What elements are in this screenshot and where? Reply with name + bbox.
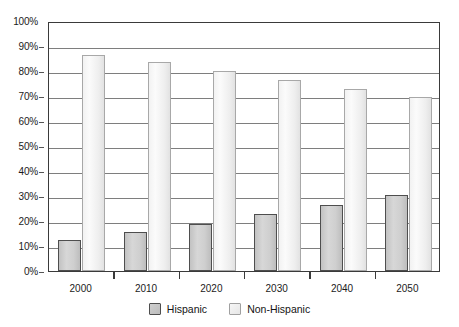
y-axis-tick-label: 10% <box>19 242 38 252</box>
legend-label: Hispanic <box>167 303 207 315</box>
plot-area <box>48 22 440 272</box>
chart-legend: HispanicNon-Hispanic <box>0 303 459 315</box>
y-axis-tick-label: 30% <box>19 192 38 202</box>
x-axis-tick-mark <box>375 272 376 279</box>
bars-layer <box>49 23 439 271</box>
bar-non-hispanic-2000 <box>82 55 105 271</box>
y-axis-tick-mark <box>39 47 44 48</box>
bar-hispanic-2010 <box>124 232 147 271</box>
legend-entry-hispanic[interactable]: Hispanic <box>149 303 207 315</box>
y-axis-tick-mark <box>39 172 44 173</box>
y-axis-tick-label: 90% <box>19 42 38 52</box>
bar-hispanic-2030 <box>254 214 277 272</box>
y-axis-tick-label: 40% <box>19 167 38 177</box>
legend-swatch-icon <box>149 303 161 315</box>
y-axis-tick-mark <box>39 72 44 73</box>
y-axis-tick-label: 20% <box>19 217 38 227</box>
x-axis-tick-label: 2040 <box>331 283 353 295</box>
y-axis-tick-label: 0% <box>24 267 38 277</box>
x-axis-tick-mark <box>309 272 310 279</box>
y-axis-tick-label: 70% <box>19 92 38 102</box>
x-axis-tick-mark <box>244 272 245 279</box>
x-axis-tick-mark <box>179 272 180 279</box>
x-axis-labels: 200020102020203020402050 <box>48 283 440 297</box>
y-axis-tick-label: 60% <box>19 117 38 127</box>
x-axis-tick-label: 2000 <box>70 283 92 295</box>
bar-non-hispanic-2030 <box>278 80 301 271</box>
bar-hispanic-2040 <box>320 205 343 271</box>
y-axis: 0%10%20%30%40%50%60%70%80%90%100% <box>0 22 44 272</box>
x-axis-ticks <box>48 272 440 280</box>
x-axis-tick-label: 2050 <box>396 283 418 295</box>
legend-entry-non-hispanic[interactable]: Non-Hispanic <box>229 303 310 315</box>
y-axis-tick-mark <box>39 97 44 98</box>
x-axis-tick-label: 2010 <box>135 283 157 295</box>
x-axis-tick-label: 2030 <box>266 283 288 295</box>
bar-non-hispanic-2040 <box>344 89 367 272</box>
bar-non-hispanic-2020 <box>213 71 236 271</box>
y-axis-tick-mark <box>39 197 44 198</box>
legend-swatch-icon <box>229 303 241 315</box>
x-axis-tick-label: 2020 <box>200 283 222 295</box>
y-axis-tick-mark <box>39 122 44 123</box>
y-axis-tick-mark <box>39 222 44 223</box>
bar-non-hispanic-2050 <box>409 97 432 271</box>
y-axis-tick-mark <box>39 147 44 148</box>
bar-hispanic-2020 <box>189 224 212 272</box>
legend-label: Non-Hispanic <box>247 303 310 315</box>
y-axis-tick-mark <box>39 247 44 248</box>
bar-hispanic-2000 <box>58 240 81 271</box>
y-axis-tick-mark <box>39 272 44 273</box>
y-axis-tick-label: 100% <box>13 17 38 27</box>
x-axis-tick-mark <box>113 272 114 279</box>
bar-chart: 0%10%20%30%40%50%60%70%80%90%100% 200020… <box>0 0 459 327</box>
y-axis-tick-label: 50% <box>19 142 38 152</box>
bar-hispanic-2050 <box>385 195 408 271</box>
bar-non-hispanic-2010 <box>148 62 171 271</box>
y-axis-tick-label: 80% <box>19 67 38 77</box>
